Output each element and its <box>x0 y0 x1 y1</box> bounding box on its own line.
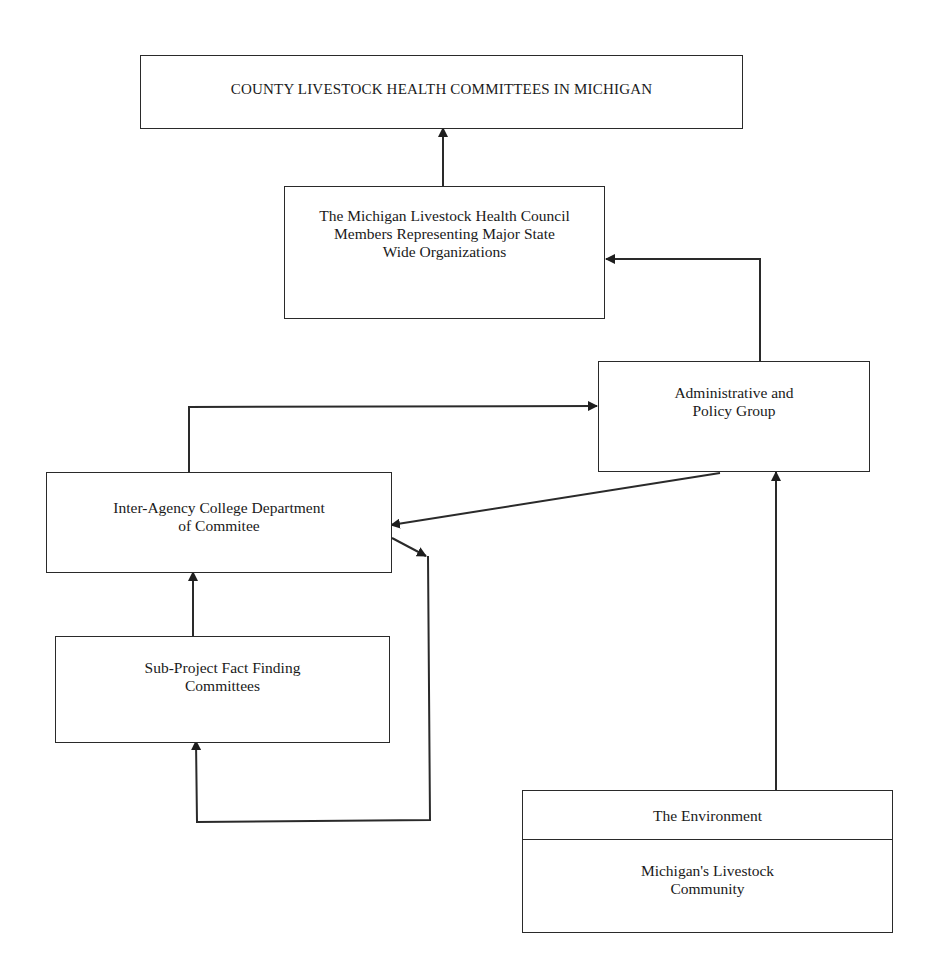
environment-divider <box>523 839 892 840</box>
arrow-interagency-to-loop <box>392 538 426 556</box>
arrow-admin-to-interagency <box>391 473 720 525</box>
sub-project-committees-label: Sub-Project Fact Finding Committees <box>56 659 389 695</box>
administrative-policy-group-label: Administrative and Policy Group <box>599 384 869 420</box>
county-committees-label: COUNTY LIVESTOCK HEALTH COMMITTEES IN MI… <box>141 80 742 98</box>
arrow-interagency-to-admin <box>189 406 597 472</box>
environment-box: The Environment Michigan's Livestock Com… <box>522 790 893 933</box>
livestock-health-council-label: The Michigan Livestock Health Council Me… <box>285 207 604 261</box>
arrow-admin-to-council <box>606 259 760 362</box>
inter-agency-committee-label: Inter-Agency College Department of Commi… <box>47 499 391 535</box>
inter-agency-committee-box: Inter-Agency College Department of Commi… <box>46 472 392 573</box>
livestock-health-council-box: The Michigan Livestock Health Council Me… <box>284 186 605 319</box>
environment-header: The Environment <box>523 807 892 825</box>
livestock-community-label: Michigan's Livestock Community <box>523 862 892 898</box>
administrative-policy-group-box: Administrative and Policy Group <box>598 361 870 472</box>
sub-project-committees-box: Sub-Project Fact Finding Committees <box>55 636 390 743</box>
county-committees-box: COUNTY LIVESTOCK HEALTH COMMITTEES IN MI… <box>140 55 743 129</box>
